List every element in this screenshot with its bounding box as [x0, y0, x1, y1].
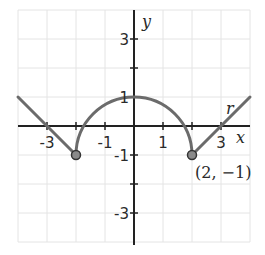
- point-label: (2, −1): [195, 163, 251, 182]
- y-tick-label: -3: [114, 205, 129, 223]
- x-tick-label: 3: [216, 134, 226, 152]
- graph-canvas: -3 -1 1 3 3 1 -1 -3 y x r (2, −1): [0, 0, 265, 255]
- x-tick-label: -3: [40, 134, 55, 152]
- y-tick-label: 3: [119, 31, 129, 49]
- x-axis-label: x: [236, 128, 245, 147]
- curve-label-r: r: [226, 99, 235, 118]
- x-tick-label: 1: [158, 134, 168, 152]
- y-axis-label: y: [141, 12, 152, 31]
- x-tick-label: -1: [98, 134, 113, 152]
- point-right-endpoint: [188, 151, 197, 160]
- point-left-endpoint: [72, 151, 81, 160]
- y-tick-label: 1: [119, 89, 129, 107]
- y-tick-label: -1: [114, 147, 129, 165]
